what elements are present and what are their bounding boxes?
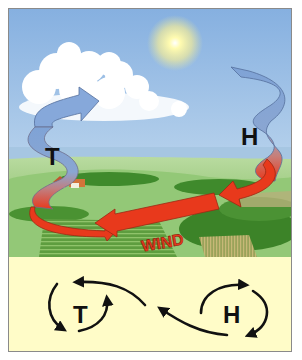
schematic-low-pressure-label: T [73, 301, 88, 328]
landscape-illustration: T H WIND [9, 9, 292, 257]
schematic-background [9, 257, 292, 352]
diagram-frame: T H WIND T H [8, 8, 292, 352]
illustration-high-pressure-label: H [241, 123, 258, 150]
circulation-schematic: T H [9, 257, 292, 352]
crop-field [199, 235, 257, 257]
diagram-canvas: T H WIND T H [9, 9, 292, 352]
schematic-high-pressure-label: H [223, 301, 240, 328]
illustration-low-pressure-label: T [45, 143, 60, 170]
sun-icon [147, 15, 203, 71]
